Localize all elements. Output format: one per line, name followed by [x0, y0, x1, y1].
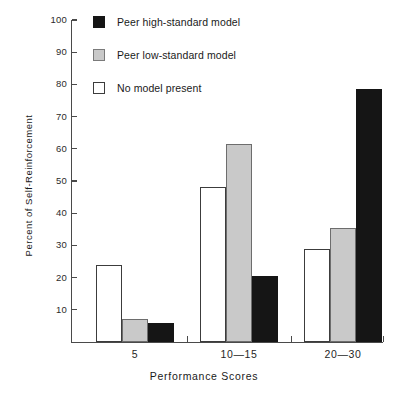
y-tick-label: 100 [36, 15, 67, 25]
bar-group [200, 20, 278, 342]
x-axis-category-label: 5 [76, 348, 194, 360]
y-tick-label: 90 [36, 47, 67, 57]
bar [226, 144, 252, 342]
legend-item-label: Peer high-standard model [117, 16, 240, 28]
y-tick-label-text: 90 [41, 47, 67, 57]
x-axis-line [71, 342, 383, 343]
y-tick-label: 40 [36, 208, 67, 218]
bar [148, 323, 174, 342]
y-tick-label: 70 [36, 112, 67, 122]
plot-area [71, 20, 383, 342]
bar [122, 319, 148, 342]
bar [330, 228, 356, 342]
y-tick-label-text: 10 [41, 305, 67, 315]
y-tick-label-text: 50 [41, 176, 67, 186]
x-axis-category-label: 10—15 [180, 348, 298, 360]
y-tick-label: 80 [36, 79, 67, 89]
bar-group [96, 20, 174, 342]
x-axis-category-label: 20—30 [284, 348, 402, 360]
x-tick-mark [383, 336, 384, 342]
y-tick-label-text: 80 [41, 79, 67, 89]
bar [356, 89, 382, 342]
legend-item-label: No model present [117, 82, 201, 94]
legend-swatch-icon [93, 82, 105, 94]
bar-chart: 102030405060708090100 510—1520—30 Peer h… [0, 0, 408, 395]
y-tick-label-text: 70 [41, 112, 67, 122]
y-tick-label-text: 40 [41, 208, 67, 218]
bar [200, 187, 226, 342]
legend-swatch-icon [93, 49, 105, 61]
y-tick-label: 50 [36, 176, 67, 186]
y-tick-label: 20 [36, 273, 67, 283]
y-tick-label: 10 [36, 305, 67, 315]
y-tick-label-text: 100 [41, 15, 67, 25]
y-tick-label-text: 60 [41, 144, 67, 154]
bar [96, 265, 122, 342]
bar-group [304, 20, 382, 342]
bar [252, 276, 278, 342]
legend-item-label: Peer low-standard model [117, 49, 236, 61]
y-axis-title: Percent of Self-Reinforcement [23, 86, 34, 286]
y-tick-label-text: 30 [41, 240, 67, 250]
legend-swatch-icon [93, 16, 105, 28]
y-tick-label: 60 [36, 144, 67, 154]
y-tick-label-text: 20 [41, 273, 67, 283]
bar [304, 249, 330, 342]
x-axis-title: Performance Scores [0, 370, 408, 382]
y-tick-label: 30 [36, 240, 67, 250]
